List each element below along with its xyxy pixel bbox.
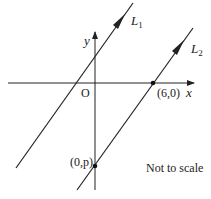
point-0-p-label: (0,p)	[70, 155, 93, 169]
coordinate-diagram: y x O L1 L2 (6,0) (0,p) Not to scale	[0, 0, 211, 199]
point-6-0-label: (6,0)	[157, 86, 180, 100]
line-l1	[16, 3, 133, 168]
point-0-p	[93, 164, 98, 169]
line-l2-arrow-icon	[172, 40, 184, 55]
line-l1-label: L1	[130, 13, 143, 30]
origin-label: O	[81, 86, 90, 100]
line-l2-label: L2	[190, 41, 203, 58]
x-axis-label: x	[185, 85, 192, 100]
y-axis-label: y	[82, 33, 90, 48]
line-l1-arrow-icon	[113, 14, 125, 29]
scale-note: Not to scale	[146, 161, 203, 175]
point-6-0	[151, 81, 156, 86]
